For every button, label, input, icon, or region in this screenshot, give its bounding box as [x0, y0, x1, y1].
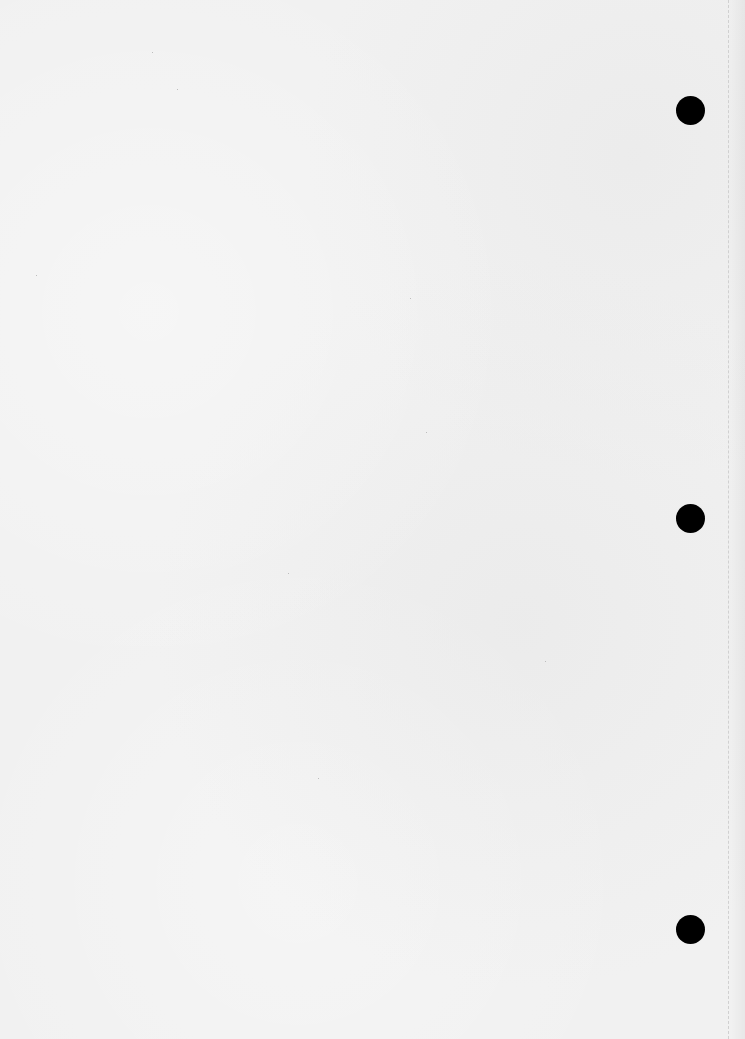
paper-page — [0, 0, 745, 1039]
paper-speck — [288, 573, 289, 574]
paper-speck — [426, 432, 427, 433]
paper-speck — [36, 275, 37, 276]
paper-speck — [410, 298, 411, 299]
page-edge-shadow — [731, 0, 745, 1039]
paper-speck — [318, 778, 319, 779]
perforation-line — [728, 0, 729, 1039]
paper-speck — [177, 89, 178, 90]
paper-speck — [152, 52, 153, 53]
punch-hole-middle — [676, 504, 705, 533]
punch-hole-top — [676, 96, 705, 125]
paper-speck — [545, 661, 546, 662]
punch-hole-bottom — [676, 915, 705, 944]
